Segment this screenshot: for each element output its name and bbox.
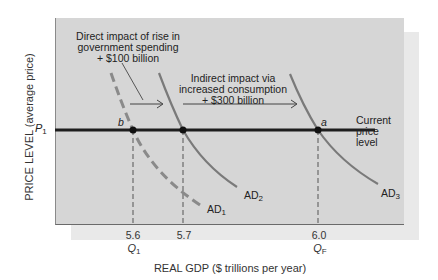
ad3-main: AD xyxy=(381,187,396,199)
ad2-sub: 2 xyxy=(259,194,263,203)
qf-label: QF xyxy=(313,242,326,256)
q1-main: Q xyxy=(127,242,136,254)
qf-sub: F xyxy=(322,247,327,256)
direct-impact-annotation: Direct impact of rise in government spen… xyxy=(72,31,184,64)
point-b-marker xyxy=(130,127,137,134)
current-price-level-label: Current price level xyxy=(356,115,391,148)
ad1-main: AD xyxy=(207,203,222,215)
point-b-label: b xyxy=(118,116,124,128)
tick-5-6: 5.6 xyxy=(126,229,141,241)
x-axis-label: REAL GDP ($ trillions per year) xyxy=(154,262,306,274)
ad2-main: AD xyxy=(244,189,259,201)
direct-leader-line xyxy=(122,63,143,100)
ad1-sub: 1 xyxy=(222,208,226,217)
indirect-line-3: + $300 billion xyxy=(173,95,293,106)
qf-main: Q xyxy=(313,242,322,254)
point-a-label: a xyxy=(321,116,327,128)
ad3-label: AD3 xyxy=(381,187,400,201)
y-axis-label: PRICE LEVEL (average price) xyxy=(23,53,35,201)
q1-sub: 1 xyxy=(136,247,140,256)
p1-tick-label: P1 xyxy=(35,122,47,136)
q1-label: Q1 xyxy=(127,242,140,256)
ad3-sub: 3 xyxy=(396,192,400,201)
ad2-label: AD2 xyxy=(244,189,263,203)
current-line-3: level xyxy=(356,137,391,148)
tick-5-7: 5.7 xyxy=(177,229,192,241)
direct-line-3: + $100 billion xyxy=(72,53,184,64)
indirect-impact-annotation: Indirect impact via increased consumptio… xyxy=(173,73,293,106)
point-57-marker xyxy=(180,127,187,134)
p1-sub: 1 xyxy=(42,127,46,136)
tick-6-0: 6.0 xyxy=(312,229,327,241)
ad1-label: AD1 xyxy=(207,203,226,217)
